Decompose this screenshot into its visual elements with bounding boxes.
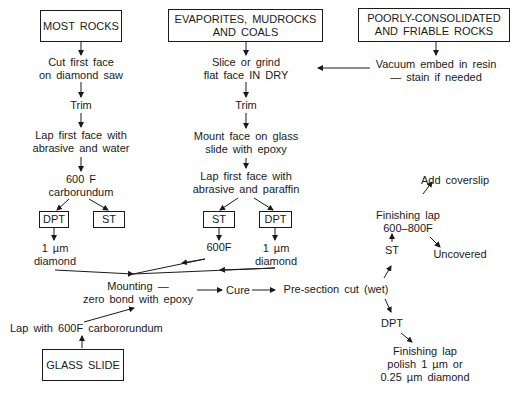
box-label: GLASS SLIDE [46,359,120,372]
step-trim-middle: Trim [186,99,306,112]
step-cure: Cure [222,284,254,297]
source-box-glass-slide: GLASS SLIDE [42,349,124,381]
left-dpt-result: 1 µmdiamond [25,242,85,268]
branch-st-label: ST [370,244,414,257]
box-label: AND COALS [213,26,279,39]
step-cut-first-face: Cut first faceon diamond saw [21,56,141,82]
step-lap-paraffin: Lap first face withabrasive and paraffin [176,170,316,196]
branch-dpt-label: DPT [370,317,414,330]
step-presection-cut: Pre-section cut (wet) [276,283,396,296]
step-600f-carborundum: 600 Fcarborundum [21,173,141,199]
step-finishing-lap-dpt: Finishing lappolish 1 µm or0.25 µm diamo… [375,345,475,384]
middle-st-result: 600F [199,241,239,254]
step-trim-left: Trim [21,99,141,112]
box-label: MOST ROCKS [43,20,119,33]
step-mounting: Mounting —zero bond with epoxy [78,280,198,306]
step-slice-grind: Slice or grindflat face IN DRY [186,56,306,82]
middle-dpt-result: 1 µmdiamond [246,242,306,268]
box-label: EVAPORITES, MUDROCKS [175,13,317,26]
step-finishing-lap-st: Finishing lap600–800F [368,209,448,235]
source-box-poorly-consolidated: POORLY-CONSOLIDATED AND FRIABLE ROCKS [358,8,510,42]
step-mount-glass: Mount face on glassslide with epoxy [186,130,306,156]
step-lap-water: Lap first face withabrasive and water [16,129,146,155]
box-dpt-left: DPT [39,211,69,228]
source-box-evaporites: EVAPORITES, MUDROCKS AND COALS [168,9,323,42]
box-st-middle: ST [203,211,235,228]
thin-section-flowchart: MOST ROCKS EVAPORITES, MUDROCKS AND COAL… [0,0,518,396]
source-box-most-rocks: MOST ROCKS [40,10,122,42]
step-vacuum-embed: Vacuum embed in resin— stain if needed [366,58,506,84]
box-st-left: ST [93,211,125,228]
step-lap-600f-glass: Lap with 600F carbororundum [10,322,160,335]
step-uncovered: Uncovered [425,248,495,261]
box-label: AND FRIABLE ROCKS [375,25,493,38]
box-label: POORLY-CONSOLIDATED [367,12,501,25]
box-dpt-middle: DPT [259,211,292,228]
step-add-coverslip: Add coverslip [415,174,495,187]
